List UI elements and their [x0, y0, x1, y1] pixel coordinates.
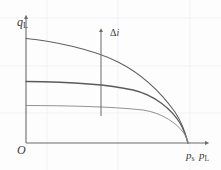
curve-low-current [26, 106, 188, 144]
origin-label: O [17, 144, 26, 156]
delta-i-annotation-label: Δi [110, 28, 119, 38]
curve-mid-current [26, 82, 188, 144]
chart-canvas [0, 0, 221, 170]
servo-valve-flow-pressure-figure: qL O ps pL Δi [0, 0, 221, 170]
x-axis-pl-label: pL [199, 150, 209, 162]
x-axis-ps-label: ps [186, 150, 194, 162]
curve-high-current [26, 39, 188, 144]
scan-grid-artifacts [0, 0, 221, 170]
y-axis-label: qL [17, 16, 28, 30]
